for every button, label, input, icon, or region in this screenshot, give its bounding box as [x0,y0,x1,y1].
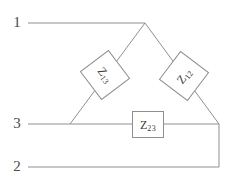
impedance-label-z23: Z23 [140,119,156,131]
network-schematic-lines [0,0,232,181]
impedance-subscript-z23: 23 [147,124,156,133]
impedance-element-z23: Z23 [132,111,164,138]
impedance-label-z12: Z12 [174,66,193,86]
terminal-label-3: 3 [10,116,24,131]
impedance-label-z13: Z13 [95,65,114,85]
impedance-subscript-z13: 13 [98,74,110,86]
delta-impedance-diagram: 1 3 2 Z13 Z12 Z23 [0,0,232,181]
terminal-label-2: 2 [10,159,24,174]
terminal-label-1: 1 [10,15,24,30]
